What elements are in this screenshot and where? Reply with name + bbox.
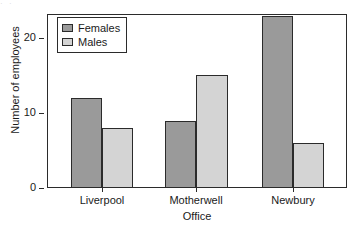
bar-liverpool-males [102,128,133,188]
legend-item-males: Males [62,35,120,49]
bar-motherwell-males [196,75,228,188]
legend-swatch-icon [62,38,73,46]
bar-motherwell-females [165,121,196,188]
bar-newbury-females [262,16,293,188]
x-tick-label-liverpool: Liverpool [52,194,152,207]
x-axis-title: Office [47,210,347,223]
x-tick-label-motherwell: Motherwell [146,194,246,207]
y-axis-title: Number of employees [9,0,21,165]
y-tick-mark [39,38,44,39]
bar-chart-figure: · · Number of employees 20 10 0 Liverpoo… [0,0,359,234]
y-tick-label: 0 [30,181,36,193]
x-tick-mark [293,188,294,192]
legend: Females Males [57,17,127,53]
legend-swatch-icon [62,24,73,32]
legend-label: Females [78,22,120,34]
y-tick-10: 10 [0,113,44,114]
y-tick-label: 20 [24,31,36,43]
bar-liverpool-females [71,98,102,188]
bar-newbury-males [293,143,324,188]
x-tick-label-newbury: Newbury [243,194,343,207]
y-tick-mark [39,188,44,189]
legend-item-females: Females [62,21,120,35]
y-tick-20: 20 [0,38,44,39]
y-tick-mark [39,113,44,114]
x-tick-mark [102,188,103,192]
legend-label: Males [78,36,107,48]
y-tick-label: 10 [24,106,36,118]
x-tick-mark [196,188,197,192]
y-tick-0: 0 [0,188,44,189]
